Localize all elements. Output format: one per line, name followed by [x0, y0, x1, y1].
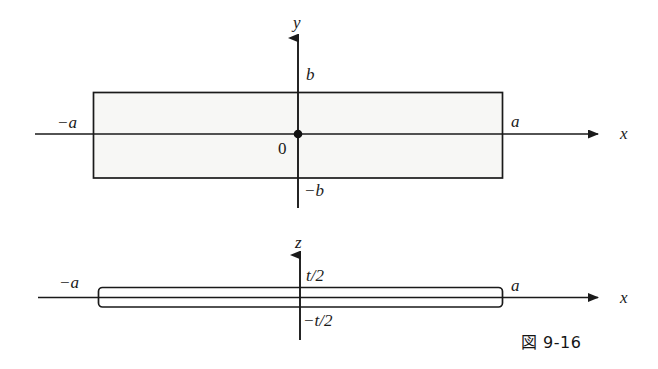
label-a-positive-top: a [511, 113, 520, 130]
label-z-axis: z [295, 234, 302, 251]
label-b-negative: −b [304, 182, 324, 199]
label-x-axis-top: x [620, 125, 628, 142]
label-y-axis: y [293, 14, 301, 31]
label-a-negative-top: −a [57, 114, 77, 131]
origin-dot [294, 130, 303, 139]
figure-caption: 図 9-16 [521, 335, 581, 351]
label-a-positive-bottom: a [511, 277, 520, 294]
label-b-positive: b [306, 66, 315, 83]
figure-container: y b −a a 0 x −b z t/2 −a a x −t/2 図 9-16 [0, 0, 658, 369]
label-t-half-negative: −t/2 [303, 312, 332, 329]
label-a-negative-bottom: −a [59, 274, 79, 291]
label-x-axis-bottom: x [620, 289, 628, 306]
label-origin: 0 [278, 140, 287, 157]
label-t-half-positive: t/2 [306, 267, 324, 284]
